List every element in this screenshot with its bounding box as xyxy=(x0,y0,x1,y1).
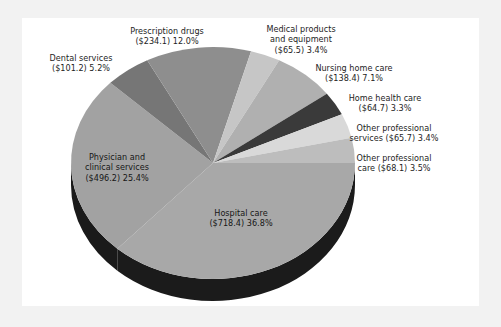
label-dental-services: Dental services ($101.2) 5.2% xyxy=(31,53,131,74)
figure-canvas: Prescription drugs ($234.1) 12.0% Dental… xyxy=(0,0,501,327)
label-home-health-care: Home health care ($64.7) 3.3% xyxy=(333,93,437,114)
label-medical-products-and-equipment: Medical products and equipment ($65.5) 3… xyxy=(252,24,350,55)
label-other-professional-care: Other professional care ($68.1) 3.5% xyxy=(333,153,455,174)
label-other-professional-services: Other professional services ($65.7) 3.4% xyxy=(333,123,455,144)
label-hospital-care: Hospital care ($718.4) 36.8% xyxy=(185,208,297,229)
label-physician-and-clinical-services: Physician and clinical services ($496.2)… xyxy=(61,152,173,183)
label-nursing-home-care: Nursing home care ($138.4) 7.1% xyxy=(300,63,408,84)
label-prescription-drugs: Prescription drugs ($234.1) 12.0% xyxy=(118,26,216,47)
